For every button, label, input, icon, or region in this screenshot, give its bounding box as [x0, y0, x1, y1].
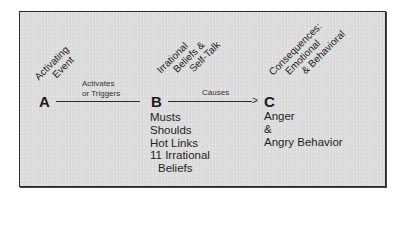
node-a-letter: A [39, 94, 50, 109]
node-c-item: & [264, 123, 343, 136]
arrowhead-icon: > [252, 96, 258, 106]
node-c-items: Anger & Angry Behavior [264, 110, 343, 148]
node-c-item: Angry Behavior [264, 136, 343, 149]
edge-bc-label: Causes [202, 88, 229, 98]
node-b-item: Shoulds [150, 124, 210, 137]
node-b-items: Musts Shoulds Hot Links 11 Irrational Be… [150, 111, 210, 175]
node-c-letter: C [264, 94, 275, 109]
node-b-item: Beliefs [150, 162, 210, 175]
edge-ab-line [56, 101, 140, 102]
node-b-item: Musts [150, 111, 210, 124]
node-c-item: Anger [264, 110, 343, 123]
edge-ab-label-line: Activates [82, 79, 120, 89]
edge-bc-line [168, 101, 252, 102]
node-b-item: 11 Irrational [150, 149, 210, 162]
edge-ab-label: Activates or Triggers [82, 79, 120, 99]
node-b-item: Hot Links [150, 137, 210, 150]
node-b-letter: B [151, 94, 162, 109]
edge-ab-label-line: or Triggers [82, 89, 120, 99]
